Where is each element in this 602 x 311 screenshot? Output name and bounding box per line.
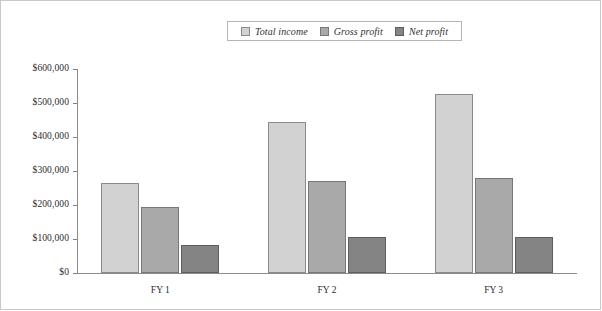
y-axis-line xyxy=(77,69,78,274)
chart-frame: Total income Gross profit Net profit $0$… xyxy=(0,0,601,310)
bar xyxy=(181,245,219,273)
y-axis-tick-label: $0 xyxy=(9,267,69,277)
y-axis-tick-mark xyxy=(73,239,77,240)
y-axis-tick-label: $100,000 xyxy=(9,233,69,243)
x-axis-line xyxy=(77,273,577,274)
y-axis-tick-label: $500,000 xyxy=(9,97,69,107)
bar xyxy=(348,237,386,273)
bar xyxy=(515,237,553,273)
y-axis-tick-label: $600,000 xyxy=(9,63,69,73)
y-axis-tick-mark xyxy=(73,273,77,274)
bar xyxy=(268,122,306,273)
y-axis-tick-mark xyxy=(73,205,77,206)
y-axis-tick-mark xyxy=(73,171,77,172)
bar xyxy=(101,183,139,273)
bar xyxy=(475,178,513,273)
y-axis-tick-label: $300,000 xyxy=(9,165,69,175)
x-axis-tick-label: FY 1 xyxy=(120,285,200,295)
bar xyxy=(141,207,179,273)
y-axis-tick-label: $400,000 xyxy=(9,131,69,141)
x-axis-tick-label: FY 3 xyxy=(454,285,534,295)
x-axis-tick-label: FY 2 xyxy=(287,285,367,295)
y-axis-tick-mark xyxy=(73,69,77,70)
bar xyxy=(308,181,346,273)
y-axis-tick-mark xyxy=(73,137,77,138)
y-axis-tick-mark xyxy=(73,103,77,104)
y-axis-tick-label: $200,000 xyxy=(9,199,69,209)
plot-area: $0$100,000$200,000$300,000$400,000$500,0… xyxy=(1,1,602,311)
bar xyxy=(435,94,473,273)
